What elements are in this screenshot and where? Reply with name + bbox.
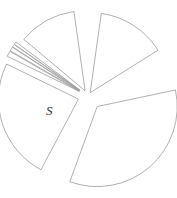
pie-chart: S: [0, 0, 177, 198]
pie-slices: [0, 12, 177, 187]
slice-label-s: S: [46, 103, 53, 118]
pie-slice-0: [90, 13, 158, 92]
pie-slice-1: [70, 90, 177, 187]
